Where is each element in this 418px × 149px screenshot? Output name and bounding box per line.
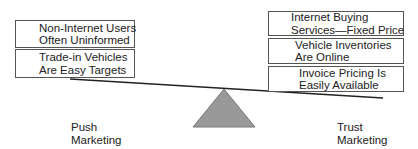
- trust-marketing-line1: Trust: [337, 121, 388, 134]
- right-box-internet-buying: Internet Buying Services—Fixed Price: [268, 11, 404, 36]
- right-box-invoice-pricing: Invoice Pricing Is Easily Available: [268, 66, 404, 92]
- push-marketing-line1: Push: [71, 121, 122, 134]
- right-box-1-line2: Services—Fixed Price: [291, 24, 403, 37]
- push-marketing-line2: Marketing: [71, 134, 122, 147]
- left-box-1-line1: Non-Internet Users: [39, 22, 134, 35]
- right-box-3-line2: Easily Available: [299, 79, 403, 92]
- left-box-2-line1: Trade-in Vehicles: [39, 51, 134, 64]
- right-box-2-line1: Vehicle Inventories: [295, 39, 403, 52]
- push-marketing-label: Push Marketing: [71, 121, 122, 147]
- left-box-trade-in-vehicles: Trade-in Vehicles Are Easy Targets: [15, 49, 135, 78]
- left-box-1-line2: Often Uninformed: [39, 34, 134, 47]
- left-box-2-line2: Are Easy Targets: [39, 64, 134, 77]
- fulcrum-triangle: [193, 89, 255, 127]
- trust-marketing-label: Trust Marketing: [337, 121, 388, 147]
- right-box-3-line1: Invoice Pricing Is: [299, 67, 403, 80]
- right-box-2-line2: Are Online: [295, 51, 403, 64]
- left-box-non-internet-users: Non-Internet Users Often Uninformed: [15, 20, 135, 48]
- right-box-1-line1: Internet Buying: [291, 11, 403, 24]
- trust-marketing-line2: Marketing: [337, 134, 388, 147]
- right-box-vehicle-inventories: Vehicle Inventories Are Online: [268, 38, 404, 64]
